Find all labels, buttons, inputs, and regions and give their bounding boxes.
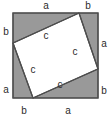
label-outer-right-lower-b: b	[98, 86, 110, 96]
label-inner-top-c: c	[40, 31, 52, 41]
label-inner-right-c: c	[69, 47, 81, 57]
label-outer-top-left-a: a	[40, 1, 52, 11]
label-outer-bottom-left-b: b	[18, 106, 30, 116]
label-outer-left-upper-b: b	[0, 27, 12, 37]
pythagorean-figure-svg	[0, 0, 110, 118]
label-outer-left-lower-a: a	[0, 85, 12, 95]
label-outer-top-right-b: b	[82, 1, 94, 11]
label-outer-right-upper-a: a	[98, 39, 110, 49]
pythagorean-diagram: a b a b b a a b c c c c	[0, 0, 110, 118]
label-inner-left-c: c	[27, 65, 39, 75]
label-outer-bottom-right-a: a	[62, 106, 74, 116]
label-inner-bottom-c: c	[54, 80, 66, 90]
